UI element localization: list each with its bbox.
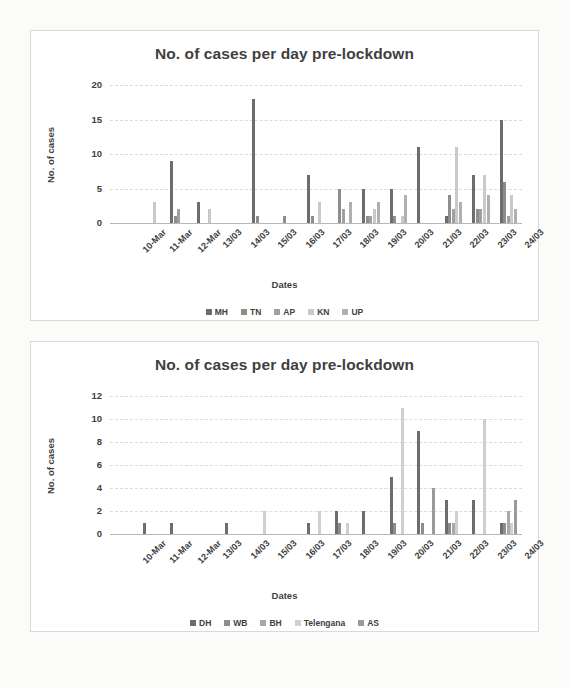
chart-1-x-tick-15/03: 15/03 xyxy=(276,227,299,250)
bar-KN-23/03 xyxy=(483,175,486,223)
bar-KN-24/03 xyxy=(510,195,513,223)
chart-2-x-tick-12-Mar: 12-Mar xyxy=(195,538,223,566)
chart-2-x-tick-16/03: 16/03 xyxy=(303,538,326,561)
legend-item-AP[interactable]: AP xyxy=(274,307,295,317)
legend-item-UP[interactable]: UP xyxy=(342,307,363,317)
bar-DH-18/03 xyxy=(335,511,338,534)
chart-2-x-tick-23/03: 23/03 xyxy=(495,538,518,561)
bar-UP-20/03 xyxy=(404,195,407,223)
legend-label-DH: DH xyxy=(199,618,211,628)
chart-1-x-tick-10-Mar: 10-Mar xyxy=(140,227,168,255)
legend-swatch-icon-AS xyxy=(358,620,364,626)
bar-KN-11-Mar xyxy=(153,202,156,223)
bar-UP-24/03 xyxy=(514,209,517,223)
chart-2-y-tick-10: 10 xyxy=(76,414,102,424)
bar-AS-21/03 xyxy=(432,488,435,534)
bar-KN-19/03 xyxy=(373,209,376,223)
bar-TN-20/03 xyxy=(393,216,396,223)
legend-item-AS[interactable]: AS xyxy=(358,618,379,628)
bar-WB-20/03 xyxy=(393,523,396,535)
bar-TN-19/03 xyxy=(366,216,369,223)
bar-MH-20/03 xyxy=(390,189,393,224)
chart-1-y-axis-label: No. of cases xyxy=(45,127,56,183)
chart-1-y-tick-5: 5 xyxy=(76,184,102,194)
chart-2-x-tick-19/03: 19/03 xyxy=(386,538,409,561)
bar-DH-12-Mar xyxy=(170,523,173,535)
chart-2-y-tick-4: 4 xyxy=(76,483,102,493)
bar-DH-19/03 xyxy=(362,511,365,534)
chart-1-x-tick-20/03: 20/03 xyxy=(413,227,436,250)
bar-WB-24/03 xyxy=(503,523,506,535)
bar-UP-18/03 xyxy=(349,202,352,223)
legend-swatch-icon-KN xyxy=(308,309,314,315)
bar-WB-18/03 xyxy=(338,523,341,535)
chart-2-x-tick-18/03: 18/03 xyxy=(358,538,381,561)
chart-2-bars xyxy=(110,396,522,534)
chart-2-x-axis-label: Dates xyxy=(31,590,538,601)
bar-AP-19/03 xyxy=(369,216,372,223)
legend-label-MH: MH xyxy=(215,307,228,317)
bar-Telengana-20/03 xyxy=(401,408,404,535)
bar-DH-14/03 xyxy=(225,523,228,535)
bar-TN-23/03 xyxy=(476,209,479,223)
bar-WB-22/03 xyxy=(448,523,451,535)
chart-2-y-tick-8: 8 xyxy=(76,437,102,447)
legend-label-UP: UP xyxy=(351,307,363,317)
bar-UP-22/03 xyxy=(459,202,462,223)
bar-DH-11-Mar xyxy=(143,523,146,535)
chart-1-x-tick-14/03: 14/03 xyxy=(248,227,271,250)
bar-MH-17/03 xyxy=(307,175,310,223)
legend-label-Telengana: Telengana xyxy=(304,618,345,628)
legend-swatch-icon-Telengana xyxy=(295,620,301,626)
bar-KN-13/03 xyxy=(208,209,211,223)
chart-2-x-tick-22/03: 22/03 xyxy=(468,538,491,561)
bar-AP-23/03 xyxy=(479,209,482,223)
chart-2-x-tick-10-Mar: 10-Mar xyxy=(140,538,168,566)
bar-TN-24/03 xyxy=(503,182,506,223)
bar-TN-18/03 xyxy=(338,189,341,224)
chart-2-legend: DHWBBHTelenganaAS xyxy=(31,618,538,628)
chart-1-x-tick-22/03: 22/03 xyxy=(468,227,491,250)
bar-Telengana-17/03 xyxy=(318,511,321,534)
legend-item-BH[interactable]: BH xyxy=(260,618,281,628)
bar-AP-18/03 xyxy=(342,209,345,223)
bar-MH-24/03 xyxy=(500,120,503,224)
chart-1-bars xyxy=(110,85,522,223)
bar-KN-22/03 xyxy=(455,147,458,223)
chart-1-x-tick-11-Mar: 11-Mar xyxy=(168,227,195,254)
legend-label-KN: KN xyxy=(317,307,329,317)
chart-2-y-tick-2: 2 xyxy=(76,506,102,516)
legend-item-KN[interactable]: KN xyxy=(308,307,329,317)
chart-1-x-tick-12-Mar: 12-Mar xyxy=(195,227,223,255)
chart-1-x-tick-18/03: 18/03 xyxy=(358,227,381,250)
bar-MH-21/03 xyxy=(417,147,420,223)
legend-item-TN[interactable]: TN xyxy=(241,307,261,317)
chart-1-x-tick-16/03: 16/03 xyxy=(303,227,326,250)
chart-2-y-axis-label: No. of cases xyxy=(45,438,56,494)
bar-TN-15/03 xyxy=(256,216,259,223)
bar-TN-16/03 xyxy=(283,216,286,223)
chart-card-1: No. of cases per day pre-lockdown No. of… xyxy=(30,30,539,321)
bar-Telengana-22/03 xyxy=(455,511,458,534)
chart-1-legend: MHTNAPKNUP xyxy=(31,307,538,317)
legend-label-TN: TN xyxy=(250,307,261,317)
bar-MH-23/03 xyxy=(472,175,475,223)
chart-1-x-tick-13/03: 13/03 xyxy=(221,227,244,250)
chart-2-x-tick-11-Mar: 11-Mar xyxy=(168,538,195,565)
bar-DH-17/03 xyxy=(307,523,310,535)
bar-MH-19/03 xyxy=(362,189,365,224)
bar-Telengana-18/03 xyxy=(346,523,349,535)
bar-KN-17/03 xyxy=(318,202,321,223)
legend-item-Telengana[interactable]: Telengana xyxy=(295,618,345,628)
legend-swatch-icon-BH xyxy=(260,620,266,626)
chart-2-y-tick-0: 0 xyxy=(76,529,102,539)
legend-item-DH[interactable]: DH xyxy=(190,618,211,628)
chart-1-y-tick-0: 0 xyxy=(76,218,102,228)
chart-1-plot: No. of cases Dates 0510152010-Mar11-Mar1… xyxy=(31,31,538,320)
chart-1-x-axis-label: Dates xyxy=(31,279,538,290)
legend-label-WB: WB xyxy=(233,618,247,628)
legend-item-MH[interactable]: MH xyxy=(206,307,228,317)
legend-swatch-icon-DH xyxy=(190,620,196,626)
bar-KN-20/03 xyxy=(401,216,404,223)
legend-item-WB[interactable]: WB xyxy=(224,618,247,628)
